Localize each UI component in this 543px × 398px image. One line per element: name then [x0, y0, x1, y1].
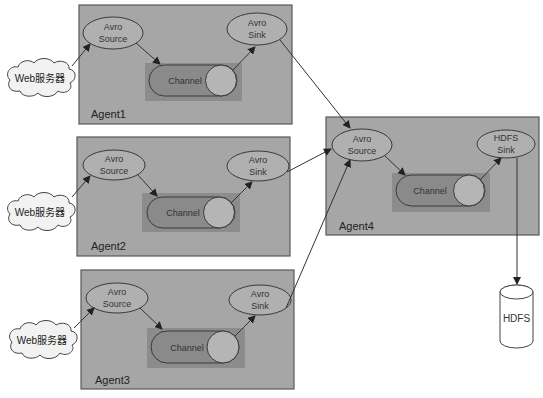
agent3-sink-line1: Avro: [251, 289, 269, 299]
hdfs-label: HDFS: [503, 313, 531, 324]
agent2-source-line1: Avro: [105, 154, 123, 164]
agent1-channel-circle: [206, 65, 237, 96]
agent4-channel-label: Channel: [413, 186, 447, 196]
agent3-sink-line2: Sink: [251, 301, 269, 311]
agent1-sink-line2: Sink: [248, 30, 266, 40]
agent2-source-line2: Source: [100, 166, 129, 176]
web-server-2: Web服务器: [8, 193, 76, 231]
agent4-label: Agent4: [339, 220, 374, 232]
agent1-group: Agent1 Avro Source Avro Sink Channel: [79, 5, 292, 124]
web-server-1: Web服务器: [8, 59, 76, 97]
agent3-group: Agent3 Avro Source Avro Sink Channel: [81, 270, 294, 389]
agent3-source-line1: Avro: [108, 287, 126, 297]
web-server-3: Web服务器: [10, 321, 78, 359]
agent3-source-line2: Source: [103, 299, 132, 309]
agent4-source-line1: Avro: [353, 134, 371, 144]
agent4-group: Agent4 Avro Source HDFS Sink Channel: [326, 117, 539, 235]
agent4-sink-line1: HDFS: [494, 133, 519, 143]
hdfs-storage: HDFS: [500, 285, 533, 348]
agent1-source-line2: Source: [99, 34, 128, 44]
agent3-channel-circle: [207, 331, 239, 363]
agent1-sink-line1: Avro: [248, 18, 266, 28]
agent4-source-line2: Source: [348, 146, 377, 156]
agent1-channel-label: Channel: [168, 76, 202, 86]
agent3-channel-label: Channel: [170, 343, 204, 353]
agent2-channel-label: Channel: [166, 208, 200, 218]
agent2-group: Agent2 Avro Source Avro Sink Channel: [77, 137, 290, 256]
web-server-3-label: Web服务器: [17, 334, 67, 346]
agent1-source-line1: Avro: [104, 22, 122, 32]
agent2-label: Agent2: [91, 240, 126, 252]
flume-topology-diagram: Agent1 Avro Source Avro Sink Channel Age…: [0, 0, 543, 398]
agent2-sink-line2: Sink: [249, 167, 267, 177]
agent2-sink-line1: Avro: [249, 155, 267, 165]
web-server-2-label: Web服务器: [15, 206, 65, 218]
agent4-sink-line2: Sink: [497, 145, 515, 155]
edge-sink2-source4: [287, 149, 331, 172]
agent3-label: Agent3: [95, 374, 130, 386]
web-server-1-label: Web服务器: [15, 72, 65, 84]
agent2-channel-circle: [204, 197, 235, 228]
agent1-label: Agent1: [91, 108, 126, 120]
cylinder-top: [500, 285, 533, 299]
